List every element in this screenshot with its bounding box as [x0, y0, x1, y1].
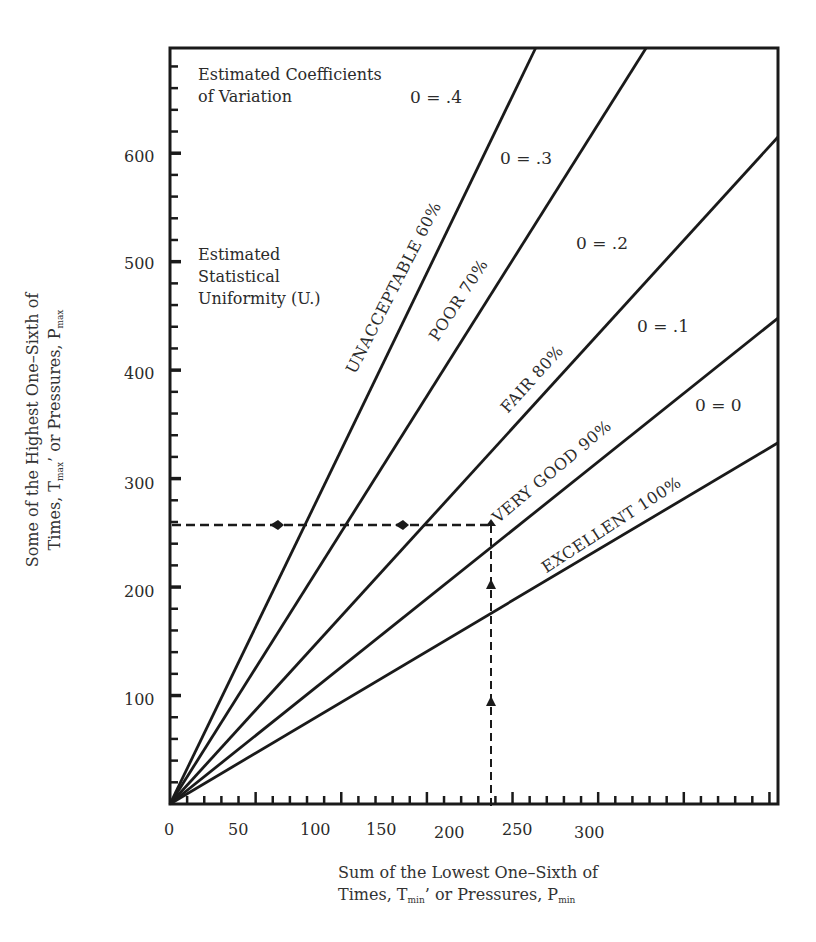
cv-label: 0 = 0	[695, 397, 742, 414]
plot-frame	[170, 48, 778, 804]
y-tick-label: 300	[124, 476, 155, 492]
x-tick-label: 50	[228, 822, 248, 838]
y-tick-label: 600	[124, 149, 155, 165]
y-tick-label: 400	[124, 366, 155, 382]
cv-label: 0 = .3	[500, 150, 552, 167]
series-line	[170, 443, 778, 804]
series-line	[170, 318, 778, 804]
series-lines	[170, 48, 778, 804]
cv-label: 0 = .4	[410, 89, 462, 106]
series-line	[170, 137, 778, 804]
uniformity-legend-title: Estimated Statistical Uniformity (U.)	[198, 244, 321, 310]
x-tick-label: 200	[434, 825, 465, 841]
cv-label: 0 = .2	[576, 235, 628, 252]
arrow-left-icon	[395, 520, 409, 530]
x-tick-label: 100	[300, 822, 331, 838]
axis-ticks	[170, 66, 769, 804]
x-axis-title: Sum of the Lowest One–Sixth of Times, Tm…	[338, 862, 598, 911]
x-tick-label: 300	[574, 825, 605, 841]
cv-label: 0 = .1	[637, 318, 689, 335]
y-tick-label: 100	[124, 692, 155, 708]
arrow-left-icon	[270, 520, 284, 530]
x-tick-label: 250	[502, 822, 533, 838]
chart-plot-area	[0, 0, 816, 942]
y-tick-label: 200	[124, 584, 155, 600]
cv-legend-title: Estimated Coefficients of Variation	[198, 64, 382, 108]
x-tick-label: 0	[164, 822, 174, 838]
x-tick-label: 150	[366, 822, 397, 838]
y-tick-label: 500	[124, 256, 155, 272]
arrow-up-icon	[486, 696, 496, 706]
y-axis-title: Some of the Highest One–Sixth of Times, …	[22, 220, 71, 640]
arrow-up-icon	[486, 579, 496, 589]
series-line	[170, 48, 646, 804]
series-line	[170, 48, 536, 804]
